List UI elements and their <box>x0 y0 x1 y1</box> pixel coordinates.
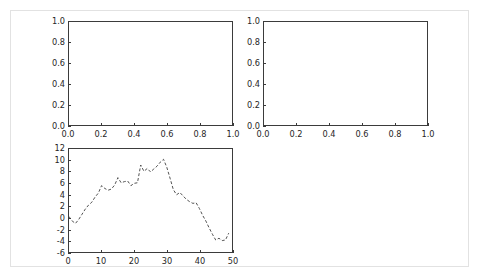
ytick-label: -4 <box>44 237 65 245</box>
xtick-mark <box>233 250 234 253</box>
ytick-mark <box>68 171 71 172</box>
ytick-mark <box>263 105 266 106</box>
xtick-label: 40 <box>195 257 205 265</box>
xtick-mark <box>101 123 102 126</box>
xtick-mark <box>263 123 264 126</box>
xtick-label: 30 <box>162 257 172 265</box>
ytick-label: 0.8 <box>44 38 65 46</box>
ytick-label: 0.4 <box>239 80 260 88</box>
ytick-mark <box>68 42 71 43</box>
ytick-label: 0.8 <box>239 38 260 46</box>
xtick-mark <box>167 123 168 126</box>
ytick-label: 0.2 <box>239 101 260 109</box>
plot-area-top-left <box>69 22 232 125</box>
ytick-mark <box>263 63 266 64</box>
ytick-mark <box>68 195 71 196</box>
xtick-label: 0.8 <box>388 130 401 138</box>
data-line-random-walk <box>69 159 229 240</box>
ytick-mark <box>68 183 71 184</box>
ytick-mark <box>68 148 71 149</box>
xtick-label: 1.0 <box>226 130 239 138</box>
xtick-label: 0 <box>65 257 70 265</box>
ytick-mark <box>68 105 71 106</box>
ytick-mark <box>68 21 71 22</box>
xtick-mark <box>68 123 69 126</box>
ytick-label: -2 <box>44 226 65 234</box>
ytick-label: 0.2 <box>44 101 65 109</box>
xtick-label: 0.0 <box>61 130 74 138</box>
xtick-label: 1.0 <box>421 130 434 138</box>
ytick-label: 4 <box>44 191 65 199</box>
ytick-mark <box>68 63 71 64</box>
xtick-mark <box>296 123 297 126</box>
ytick-label: 2 <box>44 202 65 210</box>
ytick-label: 8 <box>44 167 65 175</box>
xtick-label: 0.8 <box>193 130 206 138</box>
subplot-bottom-left[interactable] <box>68 148 233 253</box>
xtick-label: 0.0 <box>256 130 269 138</box>
xtick-label: 0.4 <box>127 130 140 138</box>
xtick-mark <box>68 250 69 253</box>
xtick-mark <box>428 123 429 126</box>
ytick-label: 1.0 <box>239 17 260 25</box>
subplot-top-left[interactable] <box>68 21 233 126</box>
plot-area-top-right <box>264 22 427 125</box>
xtick-mark <box>134 123 135 126</box>
ytick-mark <box>263 126 266 127</box>
ytick-mark <box>68 160 71 161</box>
xtick-mark <box>200 250 201 253</box>
ytick-label: 1.0 <box>44 17 65 25</box>
ytick-mark <box>68 206 71 207</box>
ytick-label: 0 <box>44 214 65 222</box>
xtick-mark <box>101 250 102 253</box>
ytick-label: 0.6 <box>44 59 65 67</box>
ytick-mark <box>68 230 71 231</box>
xtick-label: 20 <box>129 257 139 265</box>
ytick-mark <box>68 218 71 219</box>
ytick-label: 12 <box>44 144 65 152</box>
xtick-mark <box>329 123 330 126</box>
xtick-label: 50 <box>228 257 238 265</box>
xtick-mark <box>233 123 234 126</box>
ytick-mark <box>263 21 266 22</box>
xtick-mark <box>134 250 135 253</box>
ytick-label: 0.6 <box>239 59 260 67</box>
ytick-mark <box>68 253 71 254</box>
ytick-label: 6 <box>44 179 65 187</box>
xtick-mark <box>395 123 396 126</box>
ytick-label: -6 <box>44 249 65 257</box>
subplot-top-right[interactable] <box>263 21 428 126</box>
ytick-label: 10 <box>44 156 65 164</box>
ytick-mark <box>68 84 71 85</box>
ytick-mark <box>263 84 266 85</box>
xtick-mark <box>200 123 201 126</box>
ytick-mark <box>263 42 266 43</box>
plot-area-bottom-left <box>69 149 232 252</box>
ytick-mark <box>68 241 71 242</box>
ytick-label: 0.4 <box>44 80 65 88</box>
xtick-label: 0.6 <box>355 130 368 138</box>
xtick-label: 0.2 <box>289 130 302 138</box>
xtick-mark <box>167 250 168 253</box>
matplotlib-figure: 0.00.20.40.60.81.00.00.20.40.60.81.0 0.0… <box>0 0 480 279</box>
xtick-label: 0.6 <box>160 130 173 138</box>
figure-canvas: 0.00.20.40.60.81.00.00.20.40.60.81.0 0.0… <box>10 10 469 267</box>
xtick-mark <box>362 123 363 126</box>
xtick-label: 0.4 <box>322 130 335 138</box>
xtick-label: 10 <box>96 257 106 265</box>
ytick-mark <box>68 126 71 127</box>
xtick-label: 0.2 <box>94 130 107 138</box>
